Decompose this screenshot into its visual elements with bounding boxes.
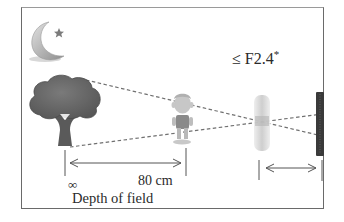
- aperture-value: ≤ F2.4: [232, 50, 274, 67]
- moon-star-icon: [29, 22, 64, 62]
- footnote-mark: *: [274, 48, 280, 60]
- depth-of-field-diagram: [0, 0, 344, 222]
- light-rays: [70, 80, 322, 147]
- child-figure: [172, 94, 194, 145]
- focus-distance-range: [259, 160, 322, 181]
- distance-label: 80 cm: [138, 174, 173, 188]
- aperture-label: ≤ F2.4*: [232, 51, 279, 67]
- depth-of-field-caption: Depth of field: [72, 191, 153, 206]
- lens: [254, 95, 270, 151]
- depth-of-field-range: [65, 148, 186, 176]
- image-sensor: [316, 92, 324, 156]
- tree-icon: [30, 75, 100, 146]
